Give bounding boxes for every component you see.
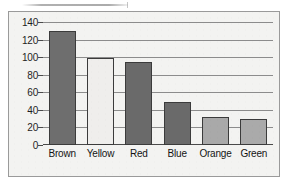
y-axis-tick-label: 120 <box>22 34 38 45</box>
bar-green <box>240 119 267 145</box>
y-axis-labels: 140120100806040200 <box>9 22 38 145</box>
bar-slot <box>235 22 273 145</box>
y-axis-tick-label: 100 <box>22 52 38 63</box>
bar-slot <box>81 22 119 145</box>
y-axis-tick-mark <box>38 145 43 146</box>
bar-red <box>125 62 152 145</box>
x-axis-tick-label-green: Green <box>235 148 273 159</box>
bar-slot <box>120 22 158 145</box>
scan-artifact-line <box>22 4 128 6</box>
y-axis-tick-label: 80 <box>27 69 38 80</box>
bar-slot <box>158 22 196 145</box>
bar-slot <box>196 22 234 145</box>
bar-orange <box>202 117 229 145</box>
x-axis-tick-label-orange: Orange <box>196 148 234 159</box>
bar-slot <box>43 22 81 145</box>
y-axis-tick-label: 140 <box>22 17 38 28</box>
y-axis-tick-label: 0 <box>33 140 38 151</box>
bars-container <box>43 22 273 145</box>
bar-brown <box>49 31 76 145</box>
bar-blue <box>164 102 191 145</box>
y-axis-tick-label: 40 <box>27 104 38 115</box>
chart-frame: 140120100806040200 BrownYellowRedBlueOra… <box>8 11 280 177</box>
x-axis-tick-label-red: Red <box>120 148 158 159</box>
x-axis-tick-label-blue: Blue <box>158 148 196 159</box>
x-axis-tick-label-brown: Brown <box>43 148 81 159</box>
bar-chart: 140120100806040200 BrownYellowRedBlueOra… <box>9 12 279 176</box>
y-axis-tick-label: 60 <box>27 87 38 98</box>
x-axis-labels: BrownYellowRedBlueOrangeGreen <box>43 148 273 159</box>
x-axis-tick-label-yellow: Yellow <box>81 148 119 159</box>
bar-yellow <box>87 58 114 145</box>
y-axis-tick-label: 20 <box>27 122 38 133</box>
